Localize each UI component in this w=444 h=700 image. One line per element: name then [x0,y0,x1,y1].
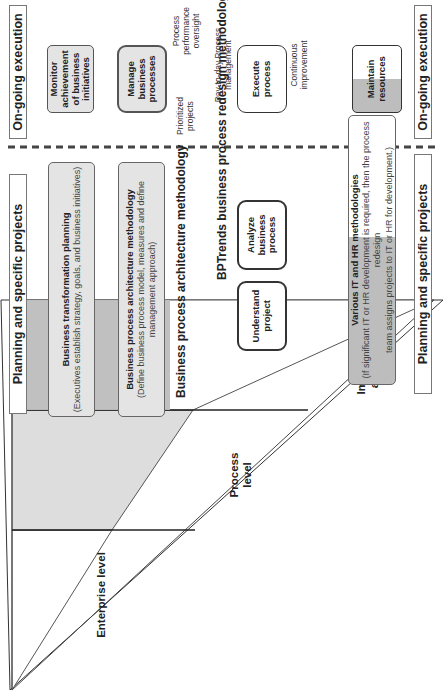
header-planning-bottom: Planning and specific projects [414,154,432,394]
band-it-hr: Various IT and HR methodologies (If sign… [348,115,396,385]
label-prioritized-projects: Prioritized projects [176,94,196,138]
step-understand-project: Understand project [237,281,287,351]
box-manage-processes: Manage business processes [117,45,167,113]
band-it-hr-subtitle-2: team assigns projects to IT or HR for de… [384,147,395,353]
level-process: Process level [228,440,254,510]
band-it-hr-subtitle-1: (If significant IT or HR development is … [361,116,384,384]
header-planning-top: Planning and specific projects [9,174,27,414]
section-architecture-title: Business process architecture methodolog… [174,145,188,398]
band-architecture-title: Business process architecture methodolog… [124,189,136,390]
level-enterprise: Enterprise level [95,550,108,640]
label-performance-oversight: Process performance oversight [172,2,201,60]
band-transformation-subtitle: (Executives establish strategy, goals, a… [72,167,83,412]
label-day-to-day: Day-to-day Process management [214,25,234,105]
band-architecture-subtitle: (Define business process model, measures… [136,163,159,416]
box-monitor-initiatives: Monitor achievement of business initiati… [47,45,94,113]
step-analyze-business-process: Analyze business process [237,200,287,270]
band-it-hr-title: Various IT and HR methodologies [349,174,361,326]
band-transformation: Business transformation planning (Execut… [48,162,95,417]
header-execution-top: On-going execution [9,5,27,139]
band-transformation-title: Business transformation planning [60,212,72,366]
bp-framework-diagram: Planning and specific projects On-going … [0,0,444,700]
label-continuous-improvement: Continuous improvement [290,25,310,105]
box-maintain-resources: Maintain resources [352,45,402,113]
header-execution-bottom: On-going execution [414,5,432,139]
band-architecture: Business process architecture methodolog… [118,162,165,417]
box-execute-process: Execute process [237,45,287,113]
